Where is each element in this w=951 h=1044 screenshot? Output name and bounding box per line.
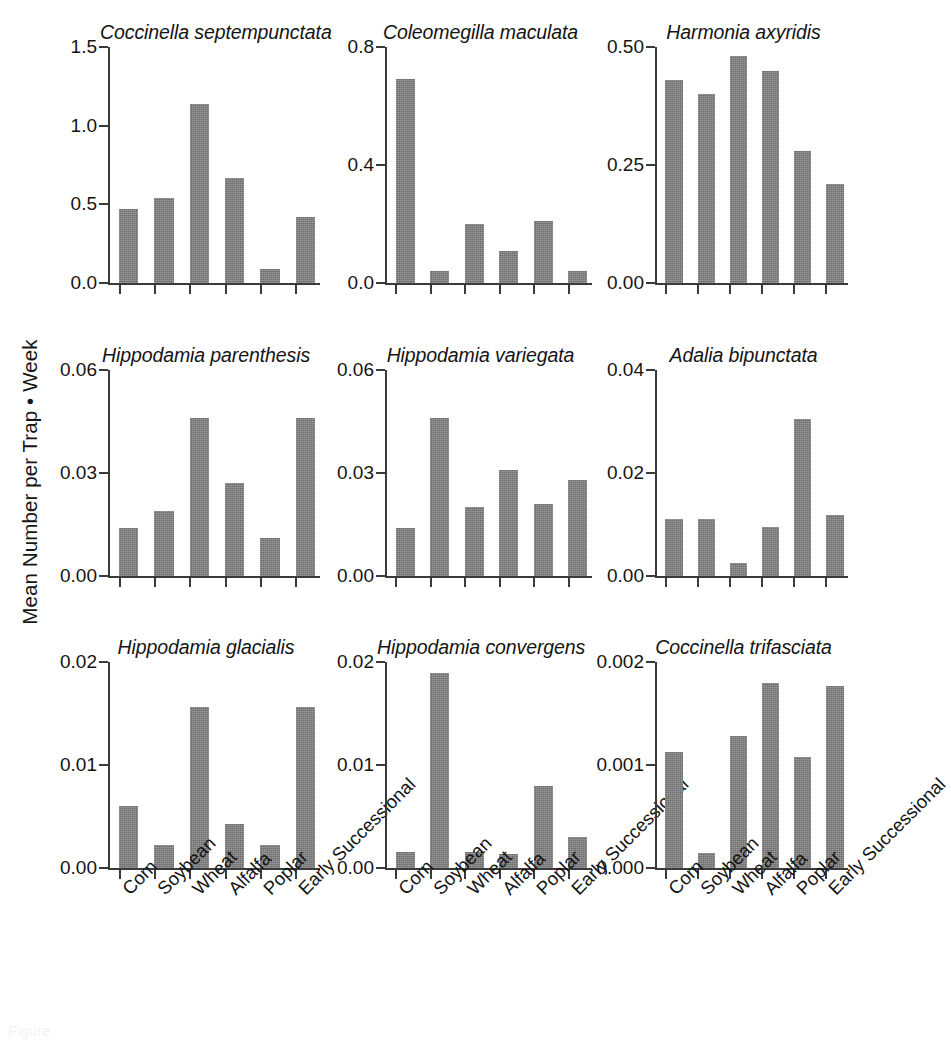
bar	[465, 507, 484, 576]
x-axis-tick	[761, 283, 763, 294]
y-axis-tick-label: 0.01	[60, 754, 97, 776]
bar	[698, 94, 715, 283]
x-axis-tick	[665, 576, 667, 587]
plot-area: 0.00.40.8	[385, 47, 592, 283]
y-axis-tick-label: 0.06	[337, 359, 374, 381]
bar	[730, 56, 747, 283]
y-axis-line	[655, 370, 657, 576]
bar	[826, 515, 843, 576]
panel-title: Hippodamia convergens	[377, 636, 584, 659]
x-axis-tick	[793, 576, 795, 587]
x-axis-tick	[825, 283, 827, 294]
x-axis-tick	[395, 283, 397, 294]
y-axis-tick-label: 0.000	[596, 857, 644, 879]
bar	[225, 483, 244, 576]
x-axis-tick	[499, 576, 501, 587]
panel-title: Harmonia axyridis	[647, 21, 840, 44]
x-axis-tick	[189, 283, 191, 294]
y-axis-tick	[376, 575, 385, 577]
y-axis-tick	[646, 164, 655, 166]
y-axis-tick-label: 0.00	[337, 857, 374, 879]
y-axis-tick-label: 0.02	[607, 462, 644, 484]
y-axis-tick	[99, 867, 108, 869]
bar	[154, 511, 173, 576]
panel-title: Hippodamia parenthesis	[100, 344, 312, 367]
y-axis-tick	[376, 164, 385, 166]
bar	[534, 221, 553, 283]
y-axis-tick	[646, 369, 655, 371]
x-axis-tick	[665, 868, 667, 879]
y-axis-tick	[99, 125, 108, 127]
bar	[430, 673, 449, 868]
y-axis-tick	[376, 472, 385, 474]
x-axis-tick	[464, 576, 466, 587]
chart-panel: Harmonia axyridis0.000.250.50	[585, 21, 858, 297]
y-axis-tick-label: 0.0	[71, 272, 97, 294]
y-axis-tick-label: 0.00	[607, 565, 644, 587]
x-axis-tick	[119, 868, 121, 879]
bar	[762, 527, 779, 576]
y-axis-tick-label: 0.002	[596, 651, 644, 673]
bar	[260, 538, 279, 576]
bar	[430, 271, 449, 283]
y-axis-tick-label: 0.02	[337, 651, 374, 673]
bar	[119, 806, 138, 868]
y-axis-tick	[99, 369, 108, 371]
y-axis-tick-label: 0.0	[348, 272, 374, 294]
x-axis-tick	[533, 283, 535, 294]
y-axis-tick-label: 0.5	[71, 193, 97, 215]
y-axis-tick	[376, 369, 385, 371]
chart-panel: Hippodamia variegata0.000.030.06	[315, 344, 602, 590]
y-axis-tick-label: 0.00	[337, 565, 374, 587]
x-axis-tick	[430, 576, 432, 587]
panel-title: Adalia bipunctata	[647, 344, 840, 367]
y-axis-tick-label: 0.00	[60, 565, 97, 587]
y-axis-line	[108, 370, 110, 576]
y-axis-tick	[646, 661, 655, 663]
y-axis-tick	[646, 764, 655, 766]
x-axis-tick	[533, 576, 535, 587]
y-axis-tick-label: 0.4	[348, 154, 374, 176]
bar	[534, 504, 553, 576]
y-axis-tick-label: 1.0	[71, 114, 97, 136]
bar	[190, 418, 209, 576]
y-axis-tick	[99, 575, 108, 577]
bar	[190, 104, 209, 283]
x-axis-tick	[119, 283, 121, 294]
x-axis-line	[108, 576, 320, 579]
plot-area: 0.000.030.06	[108, 370, 320, 576]
y-axis-tick	[99, 764, 108, 766]
y-axis-tick	[99, 282, 108, 284]
chart-panel: Adalia bipunctata0.000.020.04	[585, 344, 858, 590]
y-axis-tick-label: 1.5	[71, 36, 97, 58]
plot-area: 0.000.030.06	[385, 370, 592, 576]
y-axis-tick	[99, 661, 108, 663]
y-axis-tick-label: 0.00	[60, 857, 97, 879]
bar	[665, 519, 682, 576]
panel-title: Coleomegilla maculata	[377, 21, 584, 44]
plot-area: 0.000.010.02	[108, 662, 320, 868]
bar	[665, 752, 682, 868]
y-axis-tick-label: 0.00	[607, 272, 644, 294]
bar	[794, 151, 811, 283]
y-axis-tick-label: 0.03	[60, 462, 97, 484]
y-axis-tick	[99, 46, 108, 48]
bar	[499, 251, 518, 283]
x-axis-tick	[395, 868, 397, 879]
x-axis-tick	[295, 576, 297, 587]
y-axis-tick-label: 0.02	[60, 651, 97, 673]
chart-panel: Hippodamia glacialis0.000.010.02	[38, 636, 330, 882]
chart-panel: Hippodamia parenthesis0.000.030.06	[38, 344, 330, 590]
x-axis-line	[385, 283, 592, 286]
y-axis-tick	[376, 867, 385, 869]
y-axis-line	[655, 47, 657, 283]
chart-panel: Hippodamia convergens0.000.010.02	[315, 636, 602, 882]
x-axis-tick	[430, 283, 432, 294]
bar	[119, 528, 138, 576]
x-axis-line	[108, 283, 320, 286]
x-axis-tick	[119, 576, 121, 587]
bar	[665, 80, 682, 283]
y-axis-tick-label: 0.01	[337, 754, 374, 776]
y-axis-tick	[376, 282, 385, 284]
